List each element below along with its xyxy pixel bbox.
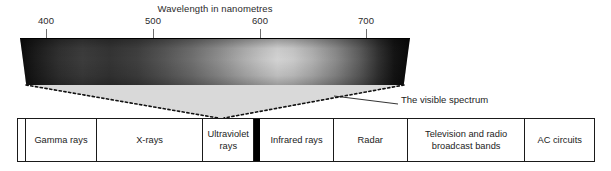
band-television-radio[interactable]: Television and radio broadcast bands	[408, 119, 526, 161]
projection-funnel	[0, 84, 611, 120]
axis-tick-mark-600	[260, 29, 261, 38]
band-gamma-rays[interactable]: Gamma rays	[26, 119, 97, 161]
spectrum-gradient	[20, 38, 410, 85]
band-infrared-rays[interactable]: Infrared rays	[260, 119, 333, 161]
funnel-fill	[26, 85, 404, 118]
visible-spectrum-callout-label: The visible spectrum	[401, 94, 488, 105]
axis-tick-mark-500	[153, 29, 154, 38]
spectrum-band-table: Gamma rays X-rays Ultraviolet rays Infra…	[17, 118, 595, 162]
axis-tick-label-700: 700	[358, 15, 374, 26]
axis-tick-label-500: 500	[145, 15, 161, 26]
visible-spectrum-band	[0, 38, 611, 88]
axis-tick-mark-400	[46, 29, 47, 38]
wavelength-axis: 400 500 600 700	[0, 0, 611, 40]
band-ac-circuits[interactable]: AC circuits	[525, 119, 594, 161]
band-spacer	[18, 119, 26, 161]
band-radar[interactable]: Radar	[334, 119, 408, 161]
spectrum-top-edge	[20, 38, 410, 39]
axis-tick-mark-700	[366, 29, 367, 38]
band-x-rays[interactable]: X-rays	[97, 119, 204, 161]
callout-leader-line	[334, 96, 398, 104]
axis-tick-label-400: 400	[38, 15, 54, 26]
electromagnetic-spectrum-figure: Wavelength in nanometres 400 500 600 700…	[0, 0, 611, 171]
axis-tick-label-600: 600	[252, 15, 268, 26]
band-ultraviolet-rays[interactable]: Ultraviolet rays	[203, 119, 254, 161]
